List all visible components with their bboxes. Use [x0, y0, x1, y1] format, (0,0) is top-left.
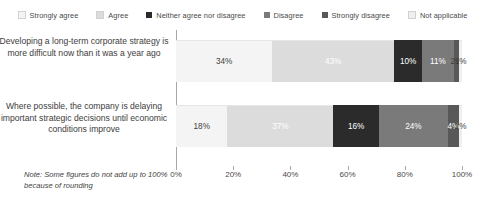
legend-item[interactable]: Neither agree nor disagree [146, 11, 245, 20]
bar-segment[interactable]: 1% [459, 105, 462, 147]
bar-segment-value-label: 43% [325, 57, 341, 66]
x-axis-tick-mark [405, 166, 406, 170]
legend-item-label: Disagree [274, 11, 304, 20]
legend-swatch-icon [408, 11, 416, 19]
legend-swatch-icon [264, 12, 270, 18]
x-axis-tick-mark [462, 166, 463, 170]
legend-swatch-icon [96, 11, 104, 19]
x-axis-tick-mark [176, 166, 177, 170]
x-axis-tick-label: 40% [282, 170, 298, 179]
legend-swatch-icon [322, 12, 328, 18]
bar-segment-value-label: 10% [400, 57, 416, 66]
bar-segment[interactable]: 34% [176, 40, 272, 82]
bar-segment-value-label: 1% [455, 57, 467, 66]
x-axis-tick-mark [348, 166, 349, 170]
legend-item[interactable]: Disagree [264, 11, 304, 20]
bar-segment[interactable]: 24% [379, 105, 448, 147]
bar-segment-value-label: 1% [455, 122, 467, 131]
legend-item-label: Not applicable [420, 11, 468, 20]
legend-item[interactable]: Strongly disagree [322, 11, 390, 20]
legend-item-label: Agree [108, 11, 128, 20]
legend-item-label: Strongly disagree [332, 11, 390, 20]
legend-item[interactable]: Not applicable [408, 11, 468, 20]
legend-swatch-icon [146, 12, 152, 18]
stacked-bar-chart: Strongly agreeAgreeNeither agree nor dis… [0, 0, 485, 201]
bar-segment[interactable]: 18% [176, 105, 227, 147]
bar-segment[interactable]: 43% [272, 40, 394, 82]
chart-footnote: Note: Some figures do not add up to 100%… [24, 170, 174, 191]
bar-segment-value-label: 24% [405, 122, 421, 131]
legend-swatch-icon [18, 11, 26, 19]
bar-segment[interactable]: 16% [333, 105, 379, 147]
x-axis-tick-mark [233, 166, 234, 170]
bar-segment[interactable]: 37% [227, 105, 333, 147]
bar-segment[interactable]: 1% [459, 40, 462, 82]
category-label: Developing a long-term corporate strateg… [0, 36, 172, 59]
bar-row: 18%37%16%24%4%1% [176, 105, 462, 147]
x-axis-tick-mark [290, 166, 291, 170]
bar-segment-value-label: 16% [348, 122, 364, 131]
bar-segment[interactable]: 11% [422, 40, 453, 82]
x-axis-tick-label: 80% [397, 170, 413, 179]
x-axis-tick-label: 100% [452, 170, 472, 179]
x-axis-tick-label: 60% [340, 170, 356, 179]
legend-item-label: Neither agree nor disagree [156, 11, 245, 20]
bar-segment[interactable]: 10% [394, 40, 422, 82]
legend-item[interactable]: Strongly agree [18, 11, 79, 20]
bar-segment-value-label: 37% [272, 122, 288, 131]
category-label: Where possible, the company is delaying … [0, 101, 172, 136]
x-axis-tick-label: 20% [225, 170, 241, 179]
bar-segment-value-label: 34% [216, 57, 232, 66]
bar-segment-value-label: 18% [194, 122, 210, 131]
chart-legend: Strongly agreeAgreeNeither agree nor dis… [0, 6, 485, 24]
bar-row: 34%43%10%11%2%1% [176, 40, 462, 82]
bar-segment-value-label: 11% [430, 57, 446, 66]
plot-area: 34%43%10%11%2%1%18%37%16%24%4%1% [176, 30, 462, 163]
legend-item[interactable]: Agree [96, 11, 128, 20]
legend-item-label: Strongly agree [30, 11, 79, 20]
